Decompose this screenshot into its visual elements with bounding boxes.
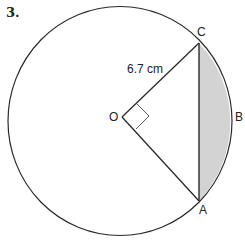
radius-oa [122, 117, 199, 201]
label-b: B [235, 111, 243, 123]
label-a: A [199, 204, 207, 216]
radius-oc [122, 43, 199, 117]
circle-diagram [0, 0, 245, 242]
label-c: C [197, 26, 206, 38]
shaded-segment [199, 43, 230, 201]
right-angle-marker [136, 103, 149, 129]
label-o: O [109, 111, 118, 123]
radius-length-label: 6.7 cm [127, 63, 163, 75]
